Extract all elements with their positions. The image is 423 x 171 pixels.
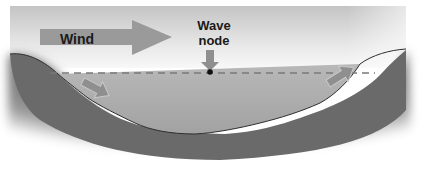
wind-label: Wind bbox=[60, 31, 94, 47]
wave-node-label-line1: Wave bbox=[196, 18, 232, 33]
seiche-diagram: Wind Wave node bbox=[0, 0, 423, 171]
wave-node-dot bbox=[207, 69, 213, 75]
wave-node-label: Wave node bbox=[196, 18, 232, 48]
wave-node-label-line2: node bbox=[196, 33, 232, 48]
